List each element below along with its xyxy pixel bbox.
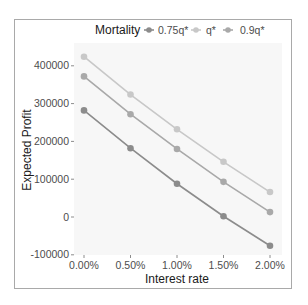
data-point xyxy=(127,145,134,152)
legend-key-point xyxy=(146,27,152,33)
y-tick-label: 100000 xyxy=(34,173,69,185)
x-tick-label: 2.00% xyxy=(255,259,285,271)
legend-key-point xyxy=(193,27,199,33)
x-tick-label: 1.50% xyxy=(209,259,239,271)
y-axis-title: Expected Profit xyxy=(20,109,34,191)
legend-key-point xyxy=(225,27,231,33)
line-chart: -1000000100000200000300000400000 0.00%0.… xyxy=(0,0,308,305)
data-point xyxy=(81,73,88,80)
data-point xyxy=(174,180,181,187)
data-point xyxy=(220,159,227,166)
data-point xyxy=(81,53,88,60)
data-point xyxy=(267,189,274,196)
data-point xyxy=(267,209,274,216)
legend-title: Mortality xyxy=(95,23,140,37)
x-axis: 0.00%0.50%1.00%1.50%2.00% xyxy=(69,255,285,271)
x-axis-title: Interest rate xyxy=(145,272,209,286)
y-tick-label: -100000 xyxy=(30,248,69,260)
y-tick-label: 200000 xyxy=(34,135,69,147)
legend-label: q* xyxy=(206,24,216,36)
data-point xyxy=(220,213,227,220)
y-tick-label: 400000 xyxy=(34,59,69,71)
y-axis: -1000000100000200000300000400000 xyxy=(30,59,74,260)
y-tick-label: 0 xyxy=(63,211,69,223)
data-point xyxy=(174,146,181,153)
x-tick-label: 0.00% xyxy=(69,259,99,271)
y-tick-label: 300000 xyxy=(34,97,69,109)
data-point xyxy=(127,111,134,118)
data-point xyxy=(81,107,88,114)
data-point xyxy=(220,179,227,186)
legend-label: 0.75q* xyxy=(158,24,188,36)
data-point xyxy=(267,242,274,249)
x-tick-label: 1.00% xyxy=(162,259,192,271)
data-point xyxy=(127,91,134,98)
data-point xyxy=(174,126,181,133)
legend-label: 0.9q* xyxy=(240,24,265,36)
x-tick-label: 0.50% xyxy=(116,259,146,271)
legend: Mortality 0.75q*q*0.9q* xyxy=(95,23,265,37)
